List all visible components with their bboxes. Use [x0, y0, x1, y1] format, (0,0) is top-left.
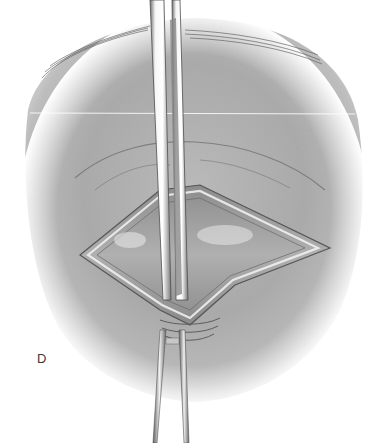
surgical-illustration: D	[0, 0, 389, 443]
illustration-canvas	[0, 0, 389, 443]
panel-label: D	[37, 352, 46, 365]
